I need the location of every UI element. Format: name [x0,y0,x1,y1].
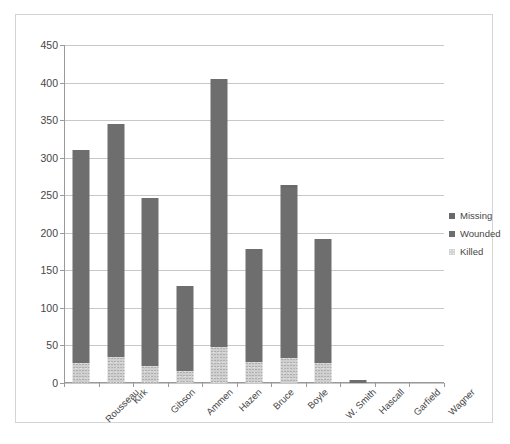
legend-item-killed[interactable]: Killed [449,243,509,261]
bar-segment-wounded[interactable] [280,188,297,359]
bar-slot [306,45,341,383]
legend-label: Killed [460,247,483,257]
y-axis-tick-label: 350 [40,115,58,126]
plot-area: 050100150200250300350400450 [64,45,444,383]
bar-stack[interactable] [73,150,90,383]
legend-item-wounded[interactable]: Wounded [449,225,509,243]
x-axis-label-ammen: Ammen [204,387,234,417]
bar-slot [133,45,168,383]
y-axis-tick-label: 150 [40,265,58,276]
x-axis-label-garfield: Garfield [412,387,442,417]
bar-segment-killed[interactable] [176,371,193,383]
x-axis-label-wagner: Wagner [446,387,476,417]
chart-frame: 050100150200250300350400450 RousseauKirk… [15,14,493,423]
bar-segment-killed[interactable] [211,347,228,383]
bar-slot [202,45,237,383]
bar-segment-wounded[interactable] [211,79,228,347]
bar-stack[interactable] [142,198,159,384]
bar-segment-wounded[interactable] [73,150,90,363]
y-axis-tick-label: 250 [40,190,58,201]
bar-segment-killed[interactable] [142,366,159,383]
bar-segment-wounded[interactable] [245,249,262,362]
bar-segment-killed[interactable] [280,358,297,383]
bar-slot [409,45,444,383]
bar-stack[interactable] [245,249,262,383]
bar-stack[interactable] [176,286,193,383]
bar-stack[interactable] [107,124,124,383]
legend-swatch-icon [449,231,455,237]
bar-slot [340,45,375,383]
x-axis-label-hascall: Hascall [377,387,406,416]
bar-segment-wounded[interactable] [349,380,366,383]
legend-swatch-icon [449,213,455,219]
bar-slot [99,45,134,383]
bar-segment-killed[interactable] [315,363,332,383]
bar-segment-wounded[interactable] [142,198,159,366]
bar-segment-wounded[interactable] [176,286,193,371]
bar-segment-wounded[interactable] [107,124,124,357]
legend-label: Wounded [460,229,501,239]
x-axis-label-w-smith: W. Smith [344,387,378,421]
legend-swatch-icon [449,249,455,255]
y-axis-tick-label: 450 [40,40,58,51]
y-axis-tick-label: 300 [40,152,58,163]
bar-slot [237,45,272,383]
x-axis-label-bruce: Bruce [271,387,295,411]
x-axis-labels-group: RousseauKirkGibsonAmmenHazenBruceBoyleW.… [64,387,444,435]
bars-layer [64,45,444,383]
x-axis-label-boyle: Boyle [305,387,329,411]
bar-segment-killed[interactable] [73,363,90,383]
bar-slot [168,45,203,383]
bar-slot [64,45,99,383]
legend-item-missing[interactable]: Missing [449,207,509,225]
bar-slot [375,45,410,383]
y-axis-tick-label: 200 [40,228,58,239]
y-axis-tick-label: 400 [40,77,58,88]
gridline [64,383,444,384]
bar-stack[interactable] [315,239,332,383]
y-axis-tick-label: 0 [52,378,58,389]
x-axis-label-hazen: Hazen [237,387,263,413]
y-axis-tick-label: 50 [46,340,58,351]
bar-segment-wounded[interactable] [315,239,332,364]
y-axis-tick-label: 100 [40,303,58,314]
chart-legend: MissingWoundedKilled [449,207,509,261]
bar-stack[interactable] [349,380,366,383]
bar-stack[interactable] [280,185,297,383]
bar-stack[interactable] [211,79,228,383]
bar-slot [271,45,306,383]
x-axis-tick-mark [444,383,445,387]
legend-label: Missing [460,211,492,221]
bar-segment-killed[interactable] [245,362,262,383]
x-axis-label-gibson: Gibson [169,387,197,415]
bar-segment-killed[interactable] [107,357,124,383]
